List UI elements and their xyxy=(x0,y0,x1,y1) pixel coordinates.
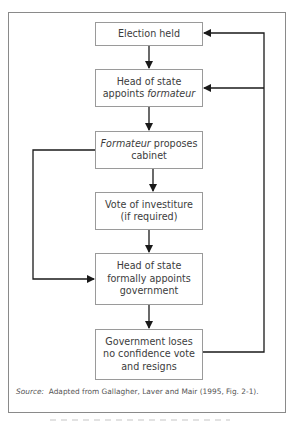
text-plain: appoints xyxy=(103,88,147,99)
box-text: Formateur proposes xyxy=(101,138,198,151)
box-text: cabinet xyxy=(131,150,167,163)
box-text: and resigns xyxy=(121,361,177,374)
box-text: no confidence vote xyxy=(103,348,195,361)
box-formally-appoints: Head of state formally appoints governme… xyxy=(95,253,203,305)
box-text: Government loses xyxy=(105,336,192,349)
arrow-bypass-left xyxy=(33,150,95,279)
text-plain: proposes xyxy=(151,138,198,149)
box-text: formally appoints xyxy=(107,273,191,286)
box-text: Head of state xyxy=(117,260,182,273)
box-election-held: Election held xyxy=(95,22,203,46)
arrow-feedback-election xyxy=(203,33,264,352)
text-italic: Formateur xyxy=(101,138,151,149)
box-appoint-formateur: Head of state appoints formateur xyxy=(95,69,203,107)
box-text: (if required) xyxy=(121,211,178,224)
box-government-loses: Government loses no confidence vote and … xyxy=(95,329,203,380)
box-text: Election held xyxy=(118,28,180,41)
source-text: Adapted from Gallagher, Laver and Mair (… xyxy=(44,387,259,396)
page-bleed-through xyxy=(50,419,230,421)
box-vote-investiture: Vote of investiture (if required) xyxy=(95,192,203,230)
source-caption: Source: Adapted from Gallagher, Laver an… xyxy=(16,387,259,396)
box-text: Vote of investiture xyxy=(105,199,193,212)
box-text: appoints formateur xyxy=(103,88,196,101)
box-text: government xyxy=(120,285,179,298)
source-label: Source: xyxy=(16,387,44,396)
box-text: Head of state xyxy=(117,76,182,89)
text-italic: formateur xyxy=(147,88,195,99)
box-propose-cabinet: Formateur proposes cabinet xyxy=(95,131,203,169)
